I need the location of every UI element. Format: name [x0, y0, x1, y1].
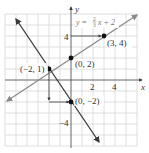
point-0-m2: [69, 100, 74, 105]
svg-text:2: 2: [93, 16, 96, 22]
point-3-4: [102, 34, 107, 39]
y-axis-label: y: [74, 4, 79, 14]
tick-y-neg4: −4: [59, 118, 69, 128]
svg-text:x + 2: x + 2: [97, 18, 115, 27]
label-point-0-2: (0, 2): [75, 59, 95, 69]
tick-x-2: 2: [90, 82, 95, 92]
equation-label: y = 2 3 x + 2: [75, 15, 119, 28]
coordinate-plane-chart: x y 2 4 4 −4 (−2, 1) (0, 2) (3, 4) (0, −…: [0, 0, 149, 153]
label-point-m2-1: (−2, 1): [20, 64, 45, 74]
tick-x-4: 4: [112, 82, 117, 92]
tick-y-4: 4: [64, 32, 69, 42]
svg-text:3: 3: [93, 22, 96, 28]
steep-line: [16, 19, 99, 142]
x-axis-label: x: [140, 82, 145, 92]
svg-text:y =: y =: [75, 18, 87, 27]
label-point-3-4: (3, 4): [107, 38, 127, 48]
point-0-2: [69, 56, 74, 61]
label-point-0-m2: (0, −2): [75, 96, 100, 106]
